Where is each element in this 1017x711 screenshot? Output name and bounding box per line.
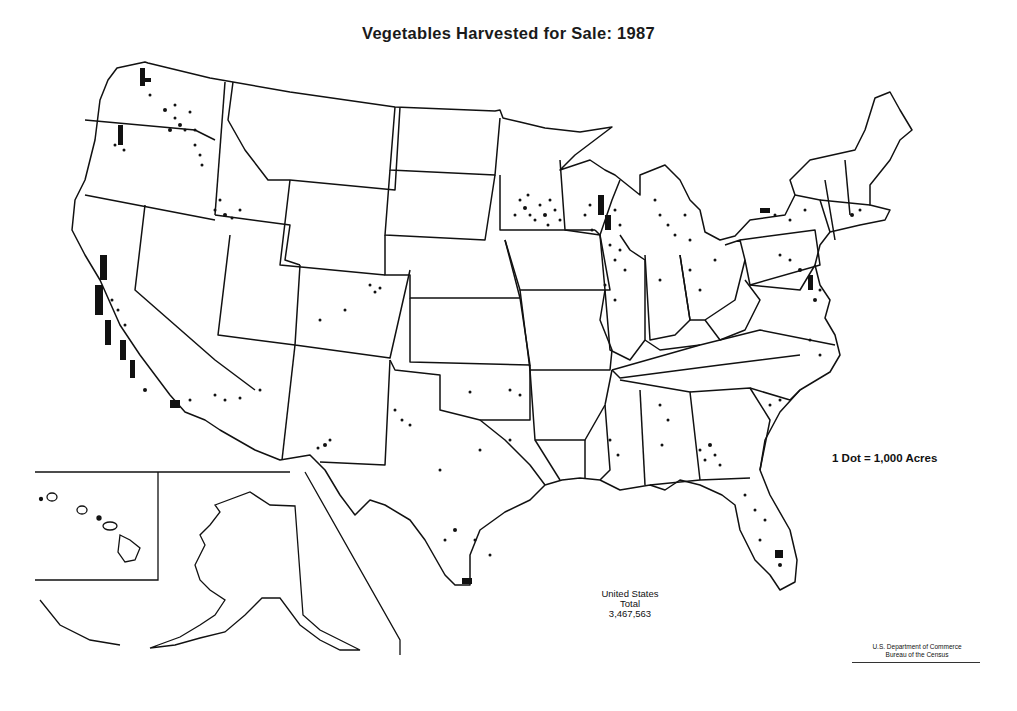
credit-rule (852, 662, 980, 663)
inset-frames (35, 472, 400, 655)
credit-bureau: Bureau of the Census (852, 651, 982, 659)
us-total-value: 3,467,563 (580, 609, 680, 619)
us-outline (72, 62, 912, 590)
us-total: United States Total 3,467,563 (580, 589, 680, 619)
us-dot-density-map (0, 0, 1017, 711)
hawaii-inset (40, 493, 141, 562)
state-boundaries (72, 62, 912, 590)
dot-legend: 1 Dot = 1,000 Acres (832, 452, 937, 464)
source-credit: U.S. Department of Commerce Bureau of th… (852, 643, 982, 663)
credit-department: U.S. Department of Commerce (852, 643, 982, 651)
alaska-inset (40, 492, 360, 650)
